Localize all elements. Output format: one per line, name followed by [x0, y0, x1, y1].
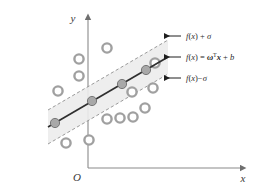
list-item: [140, 103, 149, 112]
list-item: [127, 87, 136, 96]
upper-bound-label: f(x) + σ: [186, 31, 212, 41]
list-item: [84, 135, 93, 144]
x-axis-label: x: [240, 172, 246, 184]
list-item: [61, 138, 70, 147]
y-axis-label: y: [70, 12, 76, 24]
list-item: [115, 113, 124, 122]
list-item: [50, 118, 59, 127]
list-item: [148, 83, 157, 92]
list-item: [141, 65, 150, 74]
list-item: [87, 96, 96, 105]
svr-figure: y x O: [0, 0, 266, 186]
list-item: [102, 114, 111, 123]
list-item: [53, 86, 62, 95]
regression-line-label: f(x) = ωTx + b: [186, 52, 234, 62]
list-item: [74, 54, 83, 63]
list-item: [117, 79, 126, 88]
origin-label: O: [73, 171, 81, 183]
lower-bound-label: f(x)−σ: [186, 73, 208, 83]
figure-canvas: y x O: [0, 0, 266, 186]
list-item: [102, 43, 111, 52]
list-item: [128, 112, 137, 121]
list-item: [74, 71, 83, 80]
